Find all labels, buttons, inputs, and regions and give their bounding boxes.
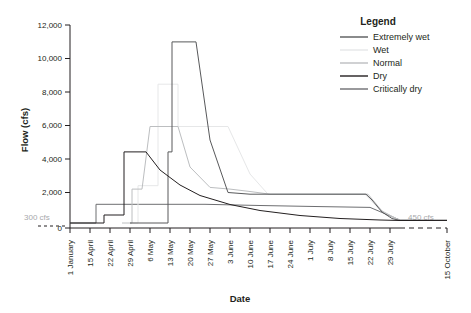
series-normal [122,127,447,224]
series-extremely-wet [130,42,447,223]
x-tick-label: 10 June [246,239,255,268]
y-tick-label: 0 [58,224,63,233]
x-tick-label: 6 May [146,240,155,262]
x-tick-label: 22 April [106,240,115,267]
y-tick-label: 12,000 [38,21,63,30]
x-tick-label: 27 May [206,240,215,266]
x-tick-label: 22 July [366,240,375,265]
x-tick-label: 29 April [126,240,135,267]
x-tick-label: 13 May [166,240,175,266]
y-tick-labels: 12,000 10,000 8,000 6,000 4,000 2,000 0 [38,21,63,233]
legend-label-extremely-wet: Extremely wet [373,32,430,42]
legend-item-dry[interactable]: Dry [340,71,387,81]
y-axis-title-text: Flow (cfs) [19,108,30,152]
x-tick-label: 1 July [306,240,315,261]
x-tick-label: 1 January [66,240,75,275]
legend-item-critically-dry[interactable]: Critically dry [340,84,423,94]
flow-chart: Flow (cfs) 12,000 10,000 8,000 6,000 4,0… [0,0,471,313]
y-axis-title: Flow (cfs) [19,108,30,152]
y-tick-label: 6,000 [42,121,63,130]
x-tick-label: 24 June [286,239,295,268]
y-tick-label: 10,000 [38,54,63,63]
x-tick-label: 29 July [386,240,395,265]
series-wet [130,84,447,223]
legend-item-wet[interactable]: Wet [340,45,389,55]
chart-svg: Flow (cfs) 12,000 10,000 8,000 6,000 4,0… [0,0,471,313]
legend-label-critically-dry: Critically dry [373,84,423,94]
series-dry [70,152,447,223]
x-tick-label: 15 October [443,240,452,280]
x-tick-label: 15 July [346,240,355,265]
x-axis [70,228,447,233]
x-tick-label: 3 June [226,239,235,264]
legend-label-wet: Wet [373,45,389,55]
x-tick-label: 17 June [266,239,275,268]
y-tick-label: 4,000 [42,155,63,164]
x-tick-label: 15 April [86,240,95,267]
x-tick-label: 20 May [186,240,195,266]
x-axis-title: Date [230,293,251,304]
y-tick-label: 8,000 [42,88,63,97]
legend-title: Legend [360,16,396,27]
y-tick-label: 2,000 [42,188,63,197]
x-tick-labels: 1 January 15 April 22 April 29 April 6 M… [66,239,452,279]
annotation-300-cfs: 300 cfs [24,213,50,222]
legend-label-dry: Dry [373,71,387,81]
legend-item-extremely-wet[interactable]: Extremely wet [340,32,430,42]
legend: Legend Extremely wet Wet Normal Dry Crit… [340,16,430,94]
y-axis [65,25,70,228]
legend-label-normal: Normal [373,58,402,68]
legend-item-normal[interactable]: Normal [340,58,402,68]
x-tick-label: 8 July [326,240,335,261]
